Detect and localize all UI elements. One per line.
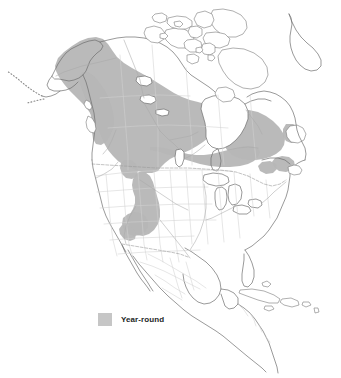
coastline-alaska-peninsula bbox=[42, 91, 60, 97]
island-axel-heiberg bbox=[194, 11, 214, 28]
river-rio-grande bbox=[160, 220, 190, 258]
aleutian-islands-east-icon bbox=[27, 99, 44, 103]
river-st-lawrence bbox=[262, 182, 286, 203]
island-lesser-antilles bbox=[314, 308, 319, 313]
range-map-figure: Year-round bbox=[0, 0, 341, 378]
coastline-gulf-of-california bbox=[128, 250, 153, 291]
coastline-yucatan bbox=[221, 289, 238, 309]
island-bahamas bbox=[262, 281, 271, 287]
island-small-arctic-c bbox=[196, 47, 203, 53]
island-jamaica bbox=[264, 306, 274, 311]
island-prince-patrick bbox=[152, 13, 167, 23]
island-king-william bbox=[187, 54, 199, 64]
mexico-state-borders bbox=[140, 254, 206, 300]
north-america-map bbox=[0, 0, 341, 378]
island-baffin bbox=[218, 48, 268, 89]
island-small-arctic-d bbox=[208, 55, 215, 61]
lake-ontario bbox=[248, 199, 262, 208]
map-legend: Year-round bbox=[98, 313, 164, 326]
coastline-central-america-caribbean bbox=[238, 304, 278, 373]
us-canada-border-east bbox=[248, 176, 286, 186]
coastline-greenland bbox=[289, 14, 321, 71]
island-somerset bbox=[201, 43, 215, 55]
island-nova-scotia bbox=[288, 165, 302, 175]
aleutian-islands-icon bbox=[7, 71, 42, 96]
lake-winnipeg bbox=[175, 149, 184, 167]
island-hispaniola bbox=[280, 298, 299, 307]
legend-item-label: Year-round bbox=[121, 316, 164, 324]
coastline-hudson-strait bbox=[245, 99, 271, 104]
island-puerto-rico bbox=[302, 302, 311, 307]
island-cuba bbox=[239, 289, 280, 303]
lake-athabasca bbox=[156, 109, 169, 116]
lake-superior bbox=[203, 173, 229, 186]
coastline-florida bbox=[242, 250, 254, 287]
legend-color-swatch bbox=[98, 313, 112, 326]
